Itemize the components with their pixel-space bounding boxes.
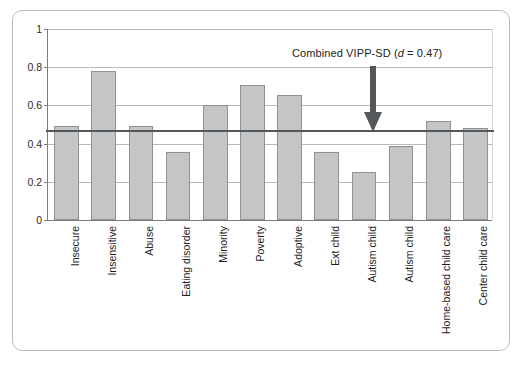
bar (240, 85, 265, 220)
bar (91, 71, 116, 220)
y-tick-label: 0.2 (27, 177, 42, 188)
gridline (48, 220, 492, 221)
x-tick-label: Ext child (330, 226, 341, 266)
bar (277, 95, 302, 220)
y-tick-label: 1 (36, 24, 42, 35)
y-tick-label: 0.6 (27, 100, 42, 111)
x-tick-label: Eating disorder (181, 226, 192, 297)
x-tick-label: Insensitive (107, 226, 118, 276)
x-tick-label: Home-based child care (441, 226, 452, 334)
y-tick-label: 0.4 (27, 138, 42, 149)
y-tick-label: 0.8 (27, 62, 42, 73)
y-tick-label: 0 (36, 215, 42, 226)
bar (314, 152, 339, 220)
combined-effect-reference-line (46, 130, 494, 132)
gridline (48, 29, 492, 30)
x-tick-label: Adoptive (293, 226, 304, 267)
y-tick-mark (44, 29, 48, 30)
x-tick-label: Autism child (404, 226, 415, 283)
bar (463, 128, 488, 220)
bar (54, 126, 79, 220)
gridline (48, 67, 492, 68)
x-tick-label: Minority (218, 226, 229, 263)
bar (426, 121, 451, 220)
annotation-prefix: Combined VIPP-SD ( (292, 47, 398, 59)
y-tick-mark (44, 144, 48, 145)
bar (352, 172, 377, 220)
y-tick-mark (44, 67, 48, 68)
x-tick-label: Autism child (367, 226, 378, 283)
bar (203, 105, 228, 220)
y-tick-mark (44, 220, 48, 221)
x-tick-label: Center child care (478, 226, 489, 305)
annotation-suffix: = 0.47) (404, 47, 442, 59)
x-tick-label: Abuse (144, 226, 155, 256)
x-tick-label: Poverty (255, 226, 266, 262)
x-tick-label: Insecure (70, 226, 81, 266)
combined-effect-annotation-label: Combined VIPP-SD (d = 0.47) (292, 47, 442, 59)
y-tick-mark (44, 105, 48, 106)
bar (129, 126, 154, 220)
bar (166, 152, 191, 220)
down-arrow-icon (364, 66, 382, 132)
bar (389, 146, 414, 220)
y-tick-mark (44, 182, 48, 183)
bar-chart: 00.20.40.60.81 Combined VIPP-SD (d = 0.4… (0, 0, 525, 368)
